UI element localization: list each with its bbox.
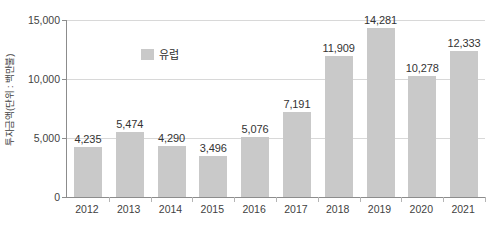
y-axis-tick-label: 15,000: [28, 14, 60, 26]
x-axis-tick-label: 2015: [201, 203, 224, 215]
legend-label-europe: 유럽: [159, 46, 179, 62]
y-axis-tickmark: [62, 197, 67, 198]
y-axis-tick-label: 10,000: [28, 73, 60, 85]
y-axis-title-text: 투자금액(단위 : 백만불): [2, 54, 16, 146]
x-axis-tickmark: [485, 197, 486, 202]
bar-value-label: 5,474: [116, 118, 143, 130]
x-axis-tick-label: 2017: [284, 203, 307, 215]
bar: [116, 132, 144, 197]
y-axis-title: 투자금액(단위 : 백만불): [0, 0, 18, 200]
x-axis-tick-label: 2012: [75, 203, 98, 215]
bar-value-label: 5,076: [242, 123, 269, 135]
bar-group: 10,278: [408, 20, 436, 197]
bar-group: 7,191: [283, 20, 311, 197]
bar: [325, 56, 353, 197]
bar-value-label: 14,281: [364, 14, 397, 26]
x-axis-tick-label: 2016: [242, 203, 265, 215]
x-axis-tick-label: 2013: [117, 203, 140, 215]
x-axis-tick-label: 2021: [451, 203, 474, 215]
bar-group: 14,281: [367, 20, 395, 197]
bar: [367, 28, 395, 197]
x-axis-tick-label: 2020: [410, 203, 433, 215]
bar: [158, 146, 186, 197]
x-axis-tick-label: 2018: [326, 203, 349, 215]
y-axis-tick-labels: 05,00010,00015,000: [18, 0, 64, 231]
bar-value-label: 12,333: [448, 37, 481, 49]
x-axis-tick-labels: 2012201320142015201620172018201920202021: [66, 201, 484, 223]
bar: [241, 137, 269, 197]
x-axis-tick-label: 2014: [159, 203, 182, 215]
bar: [199, 156, 227, 197]
legend-swatch-europe: [141, 49, 154, 60]
bar-value-label: 4,290: [158, 132, 185, 144]
bar-value-label: 4,235: [74, 133, 101, 145]
x-axis-tick-label: 2019: [368, 203, 391, 215]
bar: [408, 76, 436, 197]
bar-group: 4,235: [74, 20, 102, 197]
bar-group: 5,474: [116, 20, 144, 197]
bar-value-label: 11,909: [323, 42, 355, 54]
bar: [450, 51, 478, 197]
bar: [283, 112, 311, 197]
bar-value-label: 10,278: [406, 62, 439, 74]
chart-legend: 유럽: [141, 46, 179, 62]
bars-layer: 4,2355,4744,2903,4965,0767,19111,90914,2…: [67, 20, 485, 197]
y-axis-tick-label: 5,000: [34, 132, 60, 144]
y-axis-tick-label: 0: [54, 191, 60, 203]
bar: [74, 147, 102, 197]
bar-chart: 투자금액(단위 : 백만불) 05,00010,00015,000 4,2355…: [0, 0, 489, 231]
bar-group: 3,496: [199, 20, 227, 197]
bar-value-label: 7,191: [283, 98, 310, 110]
bar-group: 11,909: [325, 20, 353, 197]
bar-value-label: 3,496: [200, 142, 227, 154]
plot-area: 4,2355,4744,2903,4965,0767,19111,90914,2…: [66, 20, 485, 198]
bar-group: 5,076: [241, 20, 269, 197]
bar-group: 12,333: [450, 20, 478, 197]
